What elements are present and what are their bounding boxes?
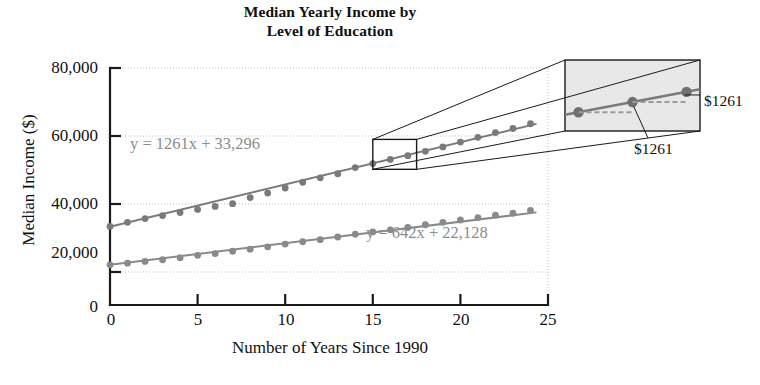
data-point-series-0 <box>439 143 446 150</box>
data-point-series-0 <box>317 174 324 181</box>
data-point-series-1 <box>527 207 534 214</box>
data-point-series-1 <box>334 234 341 241</box>
data-point-series-1 <box>510 210 517 217</box>
data-point-series-0 <box>492 129 499 136</box>
data-point-series-1 <box>229 248 236 255</box>
data-point-series-1 <box>317 236 324 243</box>
data-point-series-1 <box>404 224 411 231</box>
data-point-series-0 <box>352 164 359 171</box>
data-point-series-1 <box>439 219 446 226</box>
data-point-series-0 <box>387 156 394 163</box>
data-point-series-0 <box>124 219 131 226</box>
data-point-series-0 <box>142 215 149 222</box>
data-point-series-1 <box>194 252 201 259</box>
trendline-series-0 <box>110 124 536 227</box>
data-point-series-1 <box>387 226 394 233</box>
data-point-series-0 <box>159 212 166 219</box>
data-point-series-1 <box>282 241 289 248</box>
data-point-series-1 <box>212 250 219 257</box>
data-point-series-0 <box>299 179 306 186</box>
chart-figure: Median Yearly Income by Level of Educati… <box>0 0 760 385</box>
data-point-series-1 <box>422 221 429 228</box>
data-point-series-0 <box>177 209 184 216</box>
data-point-series-1 <box>107 261 114 268</box>
data-point-series-0 <box>194 206 201 213</box>
plot-canvas <box>0 0 760 385</box>
data-point-series-1 <box>492 212 499 219</box>
data-point-series-0 <box>422 148 429 155</box>
data-point-series-0 <box>475 134 482 141</box>
data-point-series-1 <box>475 214 482 221</box>
data-point-series-1 <box>124 260 131 267</box>
data-point-series-1 <box>264 243 271 250</box>
data-point-series-0 <box>334 170 341 177</box>
data-point-series-1 <box>159 256 166 263</box>
data-point-series-0 <box>457 139 464 146</box>
data-point-series-0 <box>212 203 219 210</box>
data-point-series-1 <box>247 246 254 253</box>
data-point-series-1 <box>352 231 359 238</box>
data-point-series-0 <box>229 200 236 207</box>
data-point-series-0 <box>404 152 411 159</box>
zoom-callout-box <box>565 60 700 131</box>
data-point-series-0 <box>527 120 534 127</box>
zoom-connector-0 <box>373 60 565 139</box>
data-point-series-0 <box>510 125 517 132</box>
data-point-series-0 <box>264 190 271 197</box>
data-point-series-1 <box>299 238 306 245</box>
data-point-series-1 <box>142 258 149 265</box>
data-point-series-0 <box>107 223 114 230</box>
zoom-connector-2 <box>373 131 565 169</box>
data-point-series-0 <box>247 194 254 201</box>
data-point-series-1 <box>177 254 184 261</box>
data-point-series-0 <box>282 185 289 192</box>
data-point-series-1 <box>457 217 464 224</box>
zoom-connector-3 <box>417 131 700 169</box>
data-point-series-1 <box>369 228 376 235</box>
zoom-data-point-2 <box>681 87 691 97</box>
